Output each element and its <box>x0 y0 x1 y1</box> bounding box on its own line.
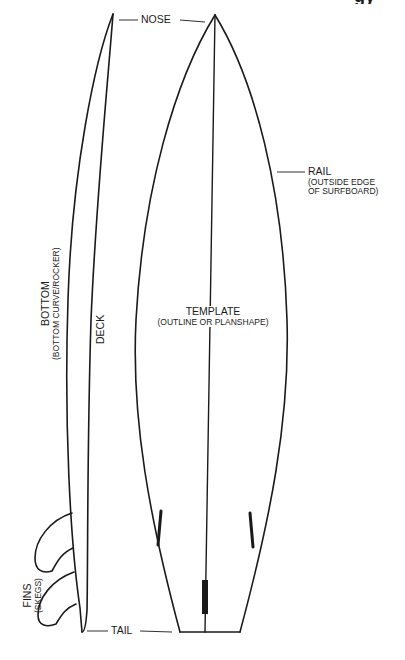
tail-label: TAIL <box>111 625 132 637</box>
bottom-label: BOTTOM (BOTTOM CURVE/ROCKER) <box>40 247 61 360</box>
fins-label: FINS (SKEGS) <box>22 578 43 613</box>
center-fin-mark <box>202 580 208 614</box>
rail-label-main: RAIL <box>308 166 378 178</box>
side-fin-right-mark <box>250 513 253 547</box>
rail-label-sub2: OF SURFBOARD) <box>308 187 378 197</box>
fin-front <box>35 513 73 572</box>
nose-leader-right <box>180 20 205 22</box>
nose-label: NOSE <box>141 14 171 26</box>
fin-rear <box>38 572 76 626</box>
fins-label-sub: (SKEGS) <box>34 578 44 613</box>
side-fin-left-mark <box>158 511 161 545</box>
fins-label-main: FINS <box>22 578 34 613</box>
template-label: TEMPLATE (OUTLINE OR PLANSHAPE) <box>148 306 278 327</box>
deck-label: DECK <box>95 315 107 344</box>
template-label-main: TEMPLATE <box>148 306 278 318</box>
rail-label: RAIL (OUTSIDE EDGE OF SURFBOARD) <box>308 166 378 197</box>
bottom-label-main: BOTTOM <box>40 247 52 360</box>
template-label-sub: (OUTLINE OR PLANSHAPE) <box>148 318 278 328</box>
bottom-label-sub: (BOTTOM CURVE/ROCKER) <box>52 247 62 360</box>
tail-leader-right <box>140 631 172 632</box>
